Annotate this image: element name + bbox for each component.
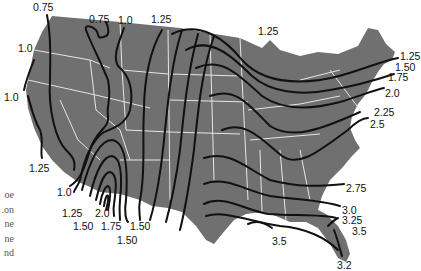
text-fragment: on. xyxy=(0,203,14,218)
contour-label: 1.0 xyxy=(118,15,133,26)
contour-label: 1.25 xyxy=(29,163,49,174)
text-fragment: ne xyxy=(0,232,14,247)
contour-label: 1.25 xyxy=(258,26,278,37)
contour-label: 1.0 xyxy=(18,43,33,54)
contour-label: 2.0 xyxy=(95,208,110,219)
contour-label: 0.75 xyxy=(33,2,53,13)
contour-label: 3.2 xyxy=(337,260,352,271)
text-fragment: nd xyxy=(0,246,14,261)
contour-label: 1.75 xyxy=(101,221,121,232)
contour-label: 3.5 xyxy=(352,226,367,237)
contour-label: 3.25 xyxy=(342,215,362,226)
text-fragment: ne xyxy=(0,217,14,232)
contour-label: 2.5 xyxy=(370,119,385,130)
contour-label: 1.75 xyxy=(388,72,408,83)
contour-label: 1.0 xyxy=(57,187,72,198)
contour-label: 3.5 xyxy=(272,236,287,247)
contour-label: 1.0 xyxy=(4,92,19,103)
contour-label: 2.0 xyxy=(385,88,400,99)
contour-label: 0.75 xyxy=(89,14,109,25)
contour-label: 2.25 xyxy=(374,107,394,118)
contour-label: 1.50 xyxy=(117,235,137,246)
contour-label: 1.25 xyxy=(62,208,82,219)
contour-label: 2.75 xyxy=(346,183,366,194)
contour-label: 1.50 xyxy=(73,221,93,232)
contour-label: 1.25 xyxy=(400,51,420,62)
contour-label: 1.50 xyxy=(130,221,150,232)
contour-label: 1.25 xyxy=(151,14,171,25)
text-fragment: oe xyxy=(0,188,14,203)
clipped-body-text: oe on. ne ne nd xyxy=(0,188,14,261)
